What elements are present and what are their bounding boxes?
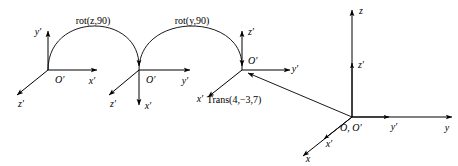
translation-arrow (248, 73, 352, 117)
frame-1-origin-label: O′ (55, 74, 65, 85)
frame-2-z-prime-label: z′ (109, 98, 117, 109)
frame-2-x-prime-label: x′ (144, 100, 152, 111)
frame-4-y-prime-label: y′ (390, 121, 398, 132)
frame-1: y′ x′ z′ O′ (17, 26, 97, 109)
frame-3: z′ y′ x′ O′ (196, 26, 299, 104)
frame-3-x-prime-axis (208, 70, 242, 97)
frame-3-y-prime-label: y′ (291, 63, 299, 74)
rotation-arc-1 (48, 26, 139, 70)
frame-1-z-prime-axis (17, 70, 48, 95)
frame-2: y′ x′ z′ O′ (109, 70, 190, 111)
diagram-canvas: rot(z,90) rot(y,90) y′ x′ z′ O′ y′ (0, 0, 458, 166)
frame-1-x-prime-label: x′ (88, 75, 96, 86)
rotation-arc-2 (139, 26, 242, 70)
rot-z-arc-path (48, 26, 139, 70)
frame-4-x-prime-label: x′ (325, 138, 333, 149)
frame-4-z-prime-label: z′ (357, 59, 365, 70)
rot-y-arc-path (139, 26, 242, 70)
frame-2-z-prime-axis (109, 70, 139, 95)
trans-label: Trans(4,−3,7) (207, 94, 262, 106)
frame-1-y-prime-label: y′ (34, 26, 42, 37)
frame-1-z-prime-label: z′ (17, 98, 25, 109)
frame-3-x-prime-label: x′ (196, 93, 204, 104)
frame-2-origin-label: O′ (146, 74, 156, 85)
frame-4-z-label: z (358, 5, 363, 16)
frame-4: z z′ y y′ x x′ O, O′ (303, 5, 452, 164)
transformation-diagram: rot(z,90) rot(y,90) y′ x′ z′ O′ y′ (0, 0, 458, 166)
rot-z-90-label: rot(z,90) (76, 15, 111, 27)
frame-2-y-prime-label: y′ (181, 75, 189, 86)
rot-y-90-label: rot(y,90) (175, 15, 210, 27)
frame-4-origin-label: O, O′ (340, 122, 362, 133)
trans-arrow-path (248, 73, 352, 117)
frame-4-y-label: y (444, 122, 450, 133)
frame-3-origin-label: O′ (248, 55, 258, 66)
frame-3-z-prime-label: z′ (247, 26, 255, 37)
frame-4-x-label: x (305, 153, 311, 164)
